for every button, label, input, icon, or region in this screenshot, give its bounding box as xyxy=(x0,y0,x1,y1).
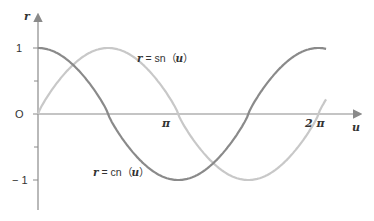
x-tick-label-2pi: 2 π xyxy=(304,117,325,130)
y-axis-label: r xyxy=(24,10,31,23)
cn-curve-label: r = cn（u） xyxy=(93,166,149,178)
elliptic-functions-chart: r u 1 O − 1 π 2 π r = sn（u） r = cn（u） xyxy=(0,0,374,221)
x-tick-label-pi: π xyxy=(161,117,171,130)
sn-curve-label: r = sn（u） xyxy=(137,52,193,64)
x-axis-label: u xyxy=(352,121,360,134)
y-tick-label-1: 1 xyxy=(16,42,22,54)
y-tick-label-minus-1: − 1 xyxy=(12,174,28,186)
y-tick-label-0: O xyxy=(15,108,24,120)
